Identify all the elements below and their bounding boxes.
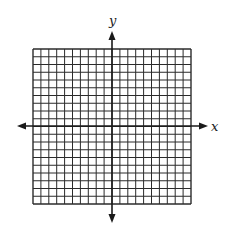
y-axis-label: y <box>108 13 117 28</box>
arrow-up-icon <box>109 31 116 40</box>
arrow-right-icon <box>199 123 208 130</box>
arrow-down-icon <box>109 214 116 223</box>
arrow-left-icon <box>17 123 26 130</box>
coordinate-plane: x y <box>0 0 229 233</box>
x-axis-label: x <box>211 119 219 134</box>
